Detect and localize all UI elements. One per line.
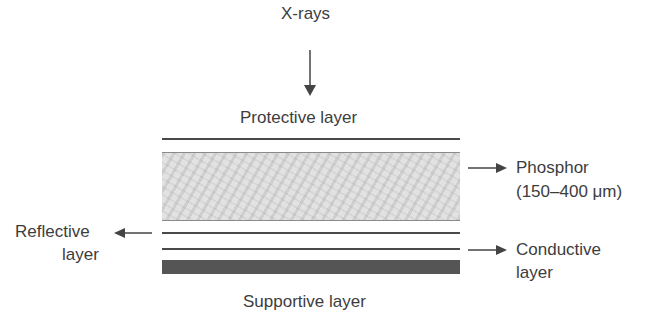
phosphor-thickness-label: (150–400 μm) [516,182,622,202]
left-arrow-icon [112,226,154,240]
right-arrow-icon [467,243,509,257]
supportive-layer-label: Supportive layer [243,292,366,312]
protective-layer-label: Protective layer [240,108,357,128]
conductive-label: Conductive [516,240,601,260]
conductive-layer-label: layer [516,263,553,283]
protective-layer [162,138,460,140]
phosphor-label: Phosphor [516,158,589,178]
reflective-label: Reflective [15,222,90,242]
conductive-layer [162,248,460,250]
down-arrow-icon [302,48,318,100]
xrays-label: X-rays [281,4,330,24]
reflective-layer [162,232,460,234]
reflective-layer-label: layer [62,245,99,265]
phosphor-layer [162,152,460,221]
right-arrow-icon [467,161,509,175]
supportive-layer [162,260,460,274]
